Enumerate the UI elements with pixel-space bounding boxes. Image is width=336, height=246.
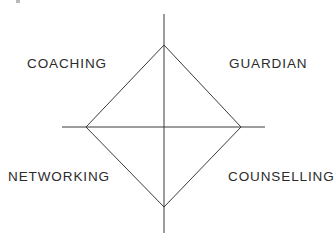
- quadrant-label-networking: NETWORKING: [8, 170, 110, 184]
- diamond-quadrant-diagram: [0, 0, 336, 246]
- quadrant-label-counselling: COUNSELLING: [228, 170, 335, 184]
- quadrant-label-guardian: GUARDIAN: [229, 57, 307, 71]
- quadrant-label-coaching: COACHING: [27, 57, 107, 71]
- diagram-canvas: COACHING GUARDIAN NETWORKING COUNSELLING: [0, 0, 336, 246]
